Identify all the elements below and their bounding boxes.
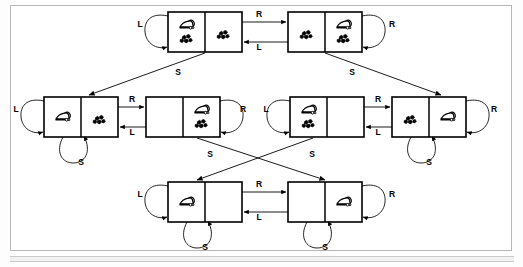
self-loop-s8-R [362,185,385,218]
action-label-t8: L [256,212,261,222]
action-label-l11: R [389,189,395,199]
vacuum-world-state-diagram: RLRLRLRLSSSSLRLSRLRSLSRS [0,0,523,267]
action-label-t5: R [375,94,381,104]
action-label-l1: L [137,19,142,29]
transition-s5-s7 [197,138,313,180]
action-label-t4: L [129,127,134,137]
action-label-l3: L [13,104,18,114]
action-label-t3: R [129,94,135,104]
action-label-l6: L [263,104,268,114]
action-label-l10: S [202,242,208,252]
state-node-s3[interactable] [44,97,118,137]
action-label-l4: S [78,157,84,167]
state-node-s2[interactable] [288,12,362,52]
action-label-t11: S [309,149,315,159]
transition-s2-s6 [325,53,441,95]
action-label-l12: S [322,242,328,252]
action-label-l2: R [389,19,395,29]
self-loop-s1-L [145,15,168,48]
action-label-t7: R [256,179,262,189]
action-label-l5: R [240,104,246,114]
diagonal-transitions [89,53,441,180]
self-loop-s7-L [145,185,168,218]
self-loop-s6-R [466,100,489,133]
state-node-s5[interactable] [290,97,364,137]
action-label-t2: L [256,42,261,52]
action-label-t12: S [207,149,213,159]
figure-stage: RLRLRLRLSSSSLRLSRLRSLSRS [0,0,523,267]
action-label-l7: R [491,104,497,114]
state-node-s1[interactable] [168,12,242,52]
action-label-t1: R [256,9,262,19]
action-label-l9: L [137,189,142,199]
action-label-l8: S [426,157,432,167]
action-label-t6: L [375,127,380,137]
transition-s4-s8 [197,138,325,180]
state-nodes-layer [44,12,466,222]
self-loop-s2-R [362,15,385,48]
action-label-t9: S [175,67,181,77]
state-node-s4[interactable] [146,97,220,137]
state-node-s6[interactable] [392,97,466,137]
action-label-t10: S [349,67,355,77]
transition-s1-s3 [89,53,205,95]
state-node-s7[interactable] [168,182,242,222]
state-node-s8[interactable] [288,182,362,222]
self-loop-s3-L [21,100,44,133]
self-loop-s5-L [267,100,290,133]
